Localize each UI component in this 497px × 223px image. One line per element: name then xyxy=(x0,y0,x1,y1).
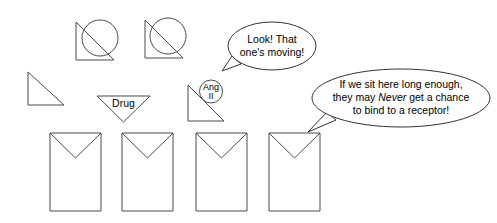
receptor-notch xyxy=(122,133,173,158)
drug-molecule: Drug xyxy=(97,96,150,122)
bubble-line-1: If we sit here long enough, xyxy=(339,78,462,90)
diagram-svg: Drug Ang II Look! That one's moving! If … xyxy=(0,0,497,223)
receptor-2 xyxy=(122,133,173,211)
bubble-line-1: Look! That xyxy=(247,33,297,45)
receptor-3 xyxy=(196,133,247,211)
free-triangle-1 xyxy=(28,72,64,105)
receptor-body xyxy=(122,133,173,211)
receptor-body xyxy=(50,133,101,211)
receptor-notch xyxy=(196,133,247,158)
receptor-body xyxy=(269,133,320,211)
bubble-line-3: to bind to a receptor! xyxy=(353,104,449,116)
triangle-circle-pair-1 xyxy=(76,20,118,60)
ang-label-line2: II xyxy=(208,91,213,101)
triangle-circle-pair-2 xyxy=(145,18,186,58)
speech-bubble-moving: Look! That one's moving! xyxy=(222,22,316,71)
receptor-body xyxy=(196,133,247,211)
bubble-line-2: they may Never get a chance xyxy=(333,91,470,103)
bubble-line-2-pre: they may xyxy=(333,91,379,103)
bubble-line-2-emphasis: Never xyxy=(378,91,407,103)
diagram-canvas: Drug Ang II Look! That one's moving! If … xyxy=(0,0,497,223)
receptor-4 xyxy=(269,133,320,211)
receptor-notch xyxy=(269,133,320,158)
receptor-notch xyxy=(50,133,101,158)
speech-bubble-receptor: If we sit here long enough, they may Nev… xyxy=(308,69,490,132)
bubble-line-2-post: get a chance xyxy=(406,91,469,103)
drug-label: Drug xyxy=(112,97,135,109)
bubble-line-2: one's moving! xyxy=(240,46,304,58)
circle-shape xyxy=(150,18,186,54)
receptor-1 xyxy=(50,133,101,211)
circle-shape xyxy=(82,20,118,56)
ang-ii-molecule: Ang II xyxy=(188,80,224,121)
